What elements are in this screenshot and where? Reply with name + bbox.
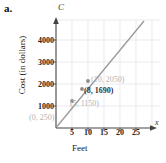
x-tick-25: 25 bbox=[126, 128, 146, 137]
y-tick-1000: 1000 bbox=[24, 102, 54, 111]
y-tick-3000: 3000 bbox=[24, 58, 54, 67]
point-annotation-10-2050: (10, 2050) bbox=[91, 75, 124, 84]
y-tick-4000: 4000 bbox=[24, 36, 54, 45]
point-annotation-5-1150: (5, 1150) bbox=[70, 99, 99, 108]
point-annotation-0-250: (0, 250) bbox=[29, 113, 54, 122]
data-line-series bbox=[57, 21, 144, 127]
x-axis-tick-labels: 5 10 15 20 25 bbox=[0, 128, 166, 140]
gridlines bbox=[56, 20, 160, 128]
y-tick-2000: 2000 bbox=[24, 80, 54, 89]
point-annotation-8-1690: (8, 1690) bbox=[84, 86, 113, 95]
axes-lines bbox=[53, 17, 157, 131]
figure-container: a. C x Cost (in dollars) Feet bbox=[0, 0, 166, 163]
